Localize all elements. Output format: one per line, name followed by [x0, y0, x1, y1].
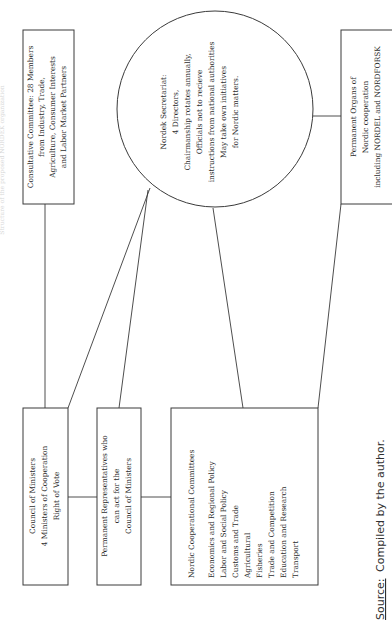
- organization-diagram: Structure of the proposed NORDEK organiz…: [0, 0, 392, 623]
- svg-text:from Industry, Trade,: from Industry, Trade,: [37, 77, 46, 157]
- svg-text:Officials not to recieve: Officials not to recieve: [195, 70, 204, 155]
- svg-text:4 Ministers of Cooperation: 4 Ministers of Cooperation: [40, 445, 49, 546]
- svg-text:Council of Ministers: Council of Ministers: [28, 458, 37, 534]
- svg-text:can act for the: can act for the: [112, 469, 121, 524]
- edge-council-secretariat: [68, 188, 150, 408]
- svg-text:Economics and Regional Policy: Economics and Regional Policy: [207, 461, 216, 578]
- cooperational-committees-node: Nordic Cooperational Committees Economic…: [171, 408, 318, 585]
- source-label: Source:: [374, 579, 387, 621]
- svg-text:and Labor Market Partners: and Labor Market Partners: [59, 66, 68, 169]
- svg-text:Customs and Trade: Customs and Trade: [231, 505, 240, 578]
- svg-text:4 Directors,: 4 Directors,: [171, 90, 180, 134]
- permanent-representatives-node: Permanent Representatives who can act fo…: [97, 408, 141, 585]
- svg-text:Right of Vote: Right of Vote: [52, 472, 61, 521]
- svg-text:Trade and Competition: Trade and Competition: [267, 491, 276, 578]
- svg-text:Nordic cooperation: Nordic cooperation: [361, 80, 370, 153]
- svg-text:Transport: Transport: [291, 541, 300, 578]
- source-text: Compiled by the author.: [374, 439, 387, 572]
- council-of-ministers-node: Council of Ministers 4 Ministers of Coop…: [23, 408, 68, 585]
- svg-text:May take own initiatives: May take own initiatives: [219, 66, 228, 158]
- svg-text:Permanent Representatives who: Permanent Representatives who: [100, 435, 109, 557]
- svg-text:Structure of the proposed NORD: Structure of the proposed NORDEK organiz…: [0, 85, 6, 234]
- svg-text:Education and Research: Education and Research: [279, 486, 288, 578]
- svg-text:Nordic Cooperational Committee: Nordic Cooperational Committees: [187, 450, 196, 578]
- svg-text:instructions from national aut: instructions from national authorities: [207, 41, 216, 182]
- edge-committees-organs: [318, 204, 341, 408]
- source-caption: Source: Compiled by the author.: [374, 439, 387, 620]
- svg-text:Consultative Committee: 28 Mem: Consultative Committee: 28 Members: [26, 46, 35, 189]
- nordek-secretariat-node: Nordek Secretariat: 4 Directors, Chairma…: [117, 11, 313, 207]
- diagram-title: Structure of the proposed NORDEK organiz…: [0, 85, 6, 234]
- svg-text:Agriculture, Consumer Interest: Agriculture, Consumer Interests: [48, 56, 57, 179]
- svg-text:Fisheries: Fisheries: [255, 543, 264, 578]
- svg-text:including NORDEL and NORDFORSK: including NORDEL and NORDFORSK: [373, 46, 382, 188]
- permanent-organs-node: Permanent Organs of Nordic cooperation i…: [341, 30, 392, 204]
- svg-text:Chairmanship rotates annually,: Chairmanship rotates annually,: [183, 53, 192, 170]
- consultative-committee-node: Consultative Committee: 28 Members from …: [23, 30, 74, 204]
- edge-committees-secretariat: [213, 208, 243, 408]
- svg-text:Nordek Secretariat:: Nordek Secretariat:: [159, 74, 168, 149]
- edge-representatives-secretariat: [119, 190, 148, 408]
- svg-text:for Nordic matters.: for Nordic matters.: [231, 76, 240, 149]
- svg-text:Agricultural: Agricultural: [243, 532, 252, 579]
- svg-text:Labor and Social Policy: Labor and Social Policy: [219, 489, 228, 578]
- svg-text:Council of Ministers: Council of Ministers: [124, 458, 133, 534]
- svg-text:Permanent Organs of: Permanent Organs of: [349, 76, 358, 157]
